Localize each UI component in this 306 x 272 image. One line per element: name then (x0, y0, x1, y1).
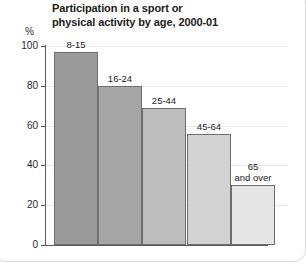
bar-16-24[interactable] (98, 86, 142, 245)
bar-label-45-64: 45-64 (179, 121, 239, 132)
y-tick-mark-80 (41, 86, 46, 87)
y-tick-mark-60 (41, 126, 46, 127)
chart-title-line-1: Participation in a sport or (52, 2, 292, 16)
bar-label-8-15: 8-15 (46, 39, 106, 50)
bar-label-65-and-over: 65 and over (223, 161, 283, 183)
y-tick-mark-40 (41, 165, 46, 166)
bar-65-and-over[interactable] (231, 185, 275, 245)
chart-figure: Participation in a sport or physical act… (0, 0, 306, 272)
bar-label-16-24: 16-24 (90, 73, 150, 84)
y-tick-mark-0 (41, 245, 46, 246)
y-tick-mark-20 (41, 205, 46, 206)
y-axis-line (45, 45, 46, 246)
chart-title-line-2: physical activity by age, 2000-01 (52, 16, 292, 30)
y-tick-mark-100 (41, 46, 46, 47)
x-axis-line (45, 245, 268, 246)
y-axis-unit-label: % (25, 26, 34, 37)
y-tick-label-80: 80 (0, 81, 38, 91)
y-tick-label-100: 100 (0, 41, 38, 51)
y-tick-label-40: 40 (0, 160, 38, 170)
y-tick-label-60: 60 (0, 121, 38, 131)
y-tick-label-20: 20 (0, 200, 38, 210)
chart-title: Participation in a sport or physical act… (52, 2, 292, 29)
y-tick-label-0: 0 (0, 240, 38, 250)
plot-area: 8-15 16-24 25-44 45-64 65 and over (46, 46, 288, 245)
bar-45-64[interactable] (187, 134, 231, 245)
bar-label-25-44: 25-44 (134, 95, 194, 106)
